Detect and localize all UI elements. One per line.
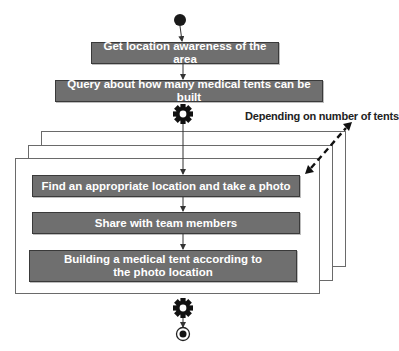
gear-icon — [173, 298, 193, 318]
start-node-icon — [174, 14, 186, 26]
stack-direction-arrow-icon — [305, 122, 352, 174]
end-node-icon — [177, 328, 190, 341]
gear-icon — [173, 104, 193, 124]
